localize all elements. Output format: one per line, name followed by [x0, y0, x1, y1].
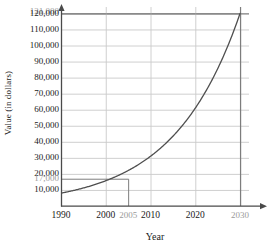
x-axis-tick-labels: 199020002005201020202030 — [0, 210, 276, 226]
x-tick-label: 1990 — [52, 210, 71, 220]
y-tick-label: 50,000 — [15, 121, 59, 130]
x-axis-title: Year — [61, 231, 249, 242]
value-curve — [61, 13, 240, 193]
horizontal-gridlines — [61, 14, 249, 191]
y-tick-label: 60,000 — [15, 105, 59, 114]
x-axis-arrow-icon — [260, 203, 267, 209]
x-tick-label: 2020 — [186, 210, 205, 220]
y-axis-title-text: Value (in dollars) — [3, 71, 13, 135]
x-tick-label: 2010 — [141, 210, 160, 220]
plot-area — [61, 7, 249, 206]
x-tick-label: 2030 — [231, 210, 249, 220]
y-tick-label: 70,000 — [15, 89, 59, 98]
y-tick-label: 80,000 — [15, 73, 59, 82]
y-tick-label: 120,000 — [15, 9, 59, 18]
y-tick-label: 90,000 — [15, 57, 59, 66]
y-tick-label: 30,000 — [15, 153, 59, 162]
plot-svg — [61, 7, 249, 206]
y-tick-label: 110,000 — [15, 25, 59, 34]
vertical-gridlines — [62, 7, 241, 206]
chart-figure: Value (in dollars) 121,000120,000110,000… — [0, 0, 276, 252]
y-tick-label: 17,000 — [15, 174, 59, 183]
y-tick-label: 10,000 — [15, 185, 59, 194]
x-tick-label: 2005 — [119, 210, 137, 220]
x-tick-label: 2000 — [96, 210, 115, 220]
y-tick-label: 40,000 — [15, 137, 59, 146]
y-tick-label: 100,000 — [15, 41, 59, 50]
